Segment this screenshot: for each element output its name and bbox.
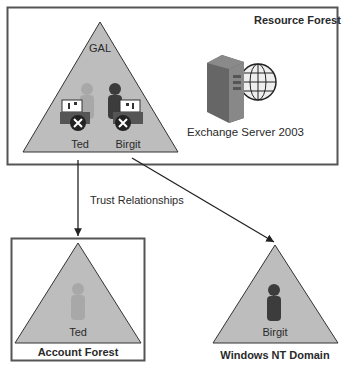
gal-user-ted: Ted	[71, 138, 89, 150]
light-user-icon	[71, 283, 85, 320]
diagram-canvas	[0, 0, 351, 369]
nt-domain-title: Windows NT Domain	[220, 349, 329, 361]
nt-user-birgit: Birgit	[262, 326, 287, 338]
resource-forest-title: Resource Forest	[254, 14, 341, 26]
dark-user-icon	[267, 284, 281, 321]
trust-relationships-label: Trust Relationships	[90, 194, 184, 206]
gal-user-birgit: Birgit	[115, 138, 140, 150]
account-user-ted: Ted	[69, 326, 87, 338]
account-forest-title: Account Forest	[38, 346, 119, 358]
gal-label: GAL	[89, 42, 111, 54]
server-label: Exchange Server 2003	[187, 126, 304, 138]
